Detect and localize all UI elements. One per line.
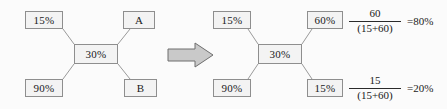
bottom-fraction: 15 (15+60) xyxy=(349,75,401,101)
top-fraction-denominator: (15+60) xyxy=(354,22,396,35)
edge-left-center-to-bottom-right xyxy=(118,64,130,79)
left-node-center[interactable]: 30% xyxy=(74,44,118,64)
left-node-top-right[interactable]: A xyxy=(123,11,155,29)
edge-right-center-to-top-right xyxy=(302,29,312,44)
edge-left-center-to-top-right xyxy=(118,29,130,44)
bottom-calculation-result: =20% xyxy=(407,82,433,94)
figure-canvas: 15% A 30% 90% B 15% 60% 30% 90% 15% 60 (… xyxy=(0,0,447,109)
right-node-bottom-right[interactable]: 15% xyxy=(307,79,343,97)
top-calculation-result: =80% xyxy=(407,15,433,27)
top-fraction: 60 (15+60) xyxy=(349,8,401,34)
right-node-top-left[interactable]: 15% xyxy=(213,11,251,29)
bottom-calculation: 15 (15+60) =20% xyxy=(349,75,433,101)
left-node-top-left[interactable]: 15% xyxy=(25,11,63,29)
right-node-top-right[interactable]: 60% xyxy=(307,11,343,29)
edge-right-center-to-bottom-right xyxy=(302,64,312,79)
right-node-bottom-left[interactable]: 90% xyxy=(213,79,251,97)
edge-right-center-to-top-left xyxy=(248,29,258,44)
top-fraction-numerator: 60 xyxy=(367,8,384,21)
left-node-bottom-right[interactable]: B xyxy=(124,79,157,97)
bottom-fraction-denominator: (15+60) xyxy=(354,89,396,102)
right-arrow-icon xyxy=(167,42,215,68)
right-node-center[interactable]: 30% xyxy=(258,44,302,64)
transform-arrow-icon xyxy=(167,42,215,68)
bottom-fraction-numerator: 15 xyxy=(367,75,384,88)
edge-left-center-to-bottom-left xyxy=(63,64,74,79)
edge-right-center-to-bottom-left xyxy=(248,64,258,79)
left-node-bottom-left[interactable]: 90% xyxy=(25,79,63,97)
top-calculation: 60 (15+60) =80% xyxy=(349,8,433,34)
edge-left-center-to-top-left xyxy=(63,29,74,44)
